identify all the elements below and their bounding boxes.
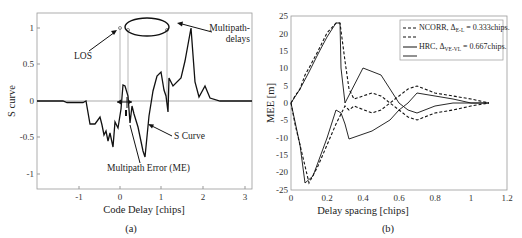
y-axis-label-b: MEE [m]: [265, 83, 276, 123]
x-tick: 1.2: [501, 193, 512, 203]
y-tick: 0.5: [23, 59, 35, 69]
hrc-lower-line: [291, 93, 489, 183]
x-tick: -1: [75, 192, 83, 202]
caption-b: (b): [382, 223, 395, 235]
y-tick: -5: [281, 115, 289, 125]
arrowhead: [177, 22, 183, 27]
caption-a: (a): [125, 223, 137, 235]
y-axis-b: 25 20 15 10 5 0 -5 -10 -15 -20 -25 MEE […: [265, 11, 289, 195]
arrowhead: [148, 124, 154, 129]
y-tick: 0: [284, 98, 289, 108]
x-tick: 1: [469, 193, 474, 203]
y-tick: 25: [279, 11, 289, 21]
x-axis-b: 0 0.2 0.4 0.6 0.8 1 1.2 Delay spacing [c…: [289, 193, 513, 235]
y-tick: -10: [276, 133, 288, 143]
x-tick: 1: [159, 192, 164, 202]
x-tick: 0: [118, 192, 123, 202]
x-tick: 0.8: [429, 193, 441, 203]
y-tick: -15: [276, 150, 288, 160]
figure: 1 0.5 0 -0.5 -1 S curve -1 0 1 2 3 Code …: [0, 0, 522, 238]
s-curve-line: [37, 28, 252, 157]
y-tick: -0.5: [20, 132, 35, 142]
x-tick: 0.4: [357, 193, 369, 203]
y-axis-a: 1 0.5 0 -0.5 -1 S curve: [6, 23, 40, 179]
legend-entry-hrc: HRC, ΔVE-VL = 0.667chips.: [419, 42, 507, 52]
annotation-me: Multipath Error (ME): [107, 163, 190, 174]
scurve-arrow: [152, 126, 172, 136]
x-axis-label-a: Code Delay [chips]: [103, 204, 185, 215]
x-axis-a: -1 0 1 2 3 Code Delay [chips] (a): [75, 186, 248, 235]
y-axis-label-a: S curve: [6, 85, 17, 117]
y-tick: 20: [279, 29, 289, 39]
legend: NCORR, ΔE-L = 0.333chips. HRC, ΔVE-VL = …: [400, 20, 510, 60]
legend-entry-ncorr: NCORR, ΔE-L = 0.333chips.: [419, 23, 510, 33]
x-axis-label-b: Delay spacing [chips]: [317, 205, 409, 216]
annotation-multipath: Multipath-: [209, 23, 250, 33]
los-arrow: [89, 32, 115, 51]
panel-a: 1 0.5 0 -0.5 -1 S curve -1 0 1 2 3 Code …: [6, 13, 252, 235]
annotation-los: LOS: [74, 51, 92, 61]
y-tick: 1: [30, 23, 35, 33]
y-tick: -20: [276, 167, 288, 177]
y-tick: 0: [30, 96, 35, 106]
panel-b: 25 20 15 10 5 0 -5 -10 -15 -20 -25 MEE […: [265, 11, 513, 235]
annotation-s-curve: S Curve: [174, 131, 205, 141]
x-tick: 0: [289, 193, 294, 203]
y-tick: 10: [279, 63, 289, 73]
y-tick: 5: [284, 81, 289, 91]
y-tick: -25: [276, 185, 288, 195]
x-tick: 0.2: [321, 193, 332, 203]
x-tick: 2: [201, 192, 206, 202]
annotation-delays: delays: [226, 34, 251, 44]
multipath-arrow: [182, 24, 212, 32]
multipath-ellipse: [125, 18, 169, 36]
y-tick: 15: [279, 46, 289, 56]
x-tick: 3: [243, 192, 248, 202]
x-tick: 0.6: [393, 193, 405, 203]
y-tick: -1: [27, 169, 35, 179]
